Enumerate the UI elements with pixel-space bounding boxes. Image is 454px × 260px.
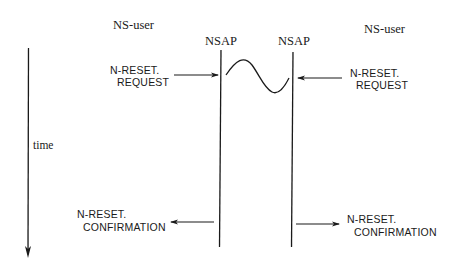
left-nsap-line	[220, 50, 222, 247]
left-ns-user-label: NS-user	[113, 18, 154, 33]
time-axis	[25, 48, 31, 258]
right-request-line2: REQUEST	[356, 79, 408, 92]
provider-wave	[226, 60, 289, 93]
right-nsap-line	[292, 52, 294, 247]
right-ns-user-label: NS-user	[364, 22, 405, 37]
right-confirmation-line1: N-RESET.	[347, 213, 396, 226]
left-request-line2: REQUEST	[117, 76, 169, 89]
reset-sequence-diagram: NS-user NSAP NSAP NS-user time N-RESET. …	[0, 0, 454, 260]
right-confirmation-line2: CONFIRMATION	[354, 226, 437, 239]
left-nsap-label: NSAP	[205, 34, 237, 49]
right-nsap-label: NSAP	[278, 34, 310, 49]
left-confirmation-line1: N-RESET.	[77, 208, 126, 221]
time-label: time	[33, 139, 53, 151]
left-confirmation-line2: CONFIRMATION	[83, 221, 166, 234]
